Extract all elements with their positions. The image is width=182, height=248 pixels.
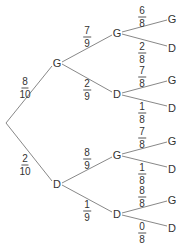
- numerator: 2: [21, 154, 29, 166]
- numerator: 1: [83, 200, 91, 212]
- numerator: 8: [83, 148, 91, 160]
- numerator: 1: [138, 102, 146, 114]
- numerator: 8: [138, 186, 146, 198]
- tree-node-d: D: [168, 103, 176, 114]
- denominator: 8: [139, 114, 145, 125]
- tree-branches: [0, 0, 182, 248]
- denominator: 9: [84, 38, 90, 49]
- branch-probability: 88: [138, 186, 146, 209]
- numerator: 0: [138, 222, 146, 234]
- numerator: 7: [138, 127, 146, 139]
- denominator: 10: [19, 89, 30, 100]
- denominator: 8: [139, 54, 145, 65]
- branch-probability: 29: [83, 79, 91, 102]
- numerator: 6: [138, 6, 146, 18]
- numerator: 8: [21, 77, 29, 89]
- branch-probability: 78: [138, 127, 146, 150]
- tree-node-d: D: [53, 179, 61, 190]
- denominator: 8: [139, 18, 145, 29]
- numerator: 7: [83, 26, 91, 38]
- tree-node-d: D: [113, 209, 121, 220]
- branch-probability: 19: [83, 200, 91, 223]
- tree-node-d: D: [113, 89, 121, 100]
- denominator: 10: [19, 166, 30, 177]
- branch-probability: 79: [83, 26, 91, 49]
- branch-probability: 68: [138, 6, 146, 29]
- branch-probability: 18: [138, 102, 146, 125]
- denominator: 8: [139, 234, 145, 245]
- tree-node-g: G: [113, 28, 122, 39]
- tree-node-g: G: [113, 150, 122, 161]
- numerator: 2: [83, 79, 91, 91]
- tree-node-g: G: [168, 136, 177, 147]
- branch-probability: 78: [138, 66, 146, 89]
- numerator: 1: [138, 163, 146, 175]
- branch-probability: 810: [19, 77, 30, 100]
- tree-node-d: D: [168, 223, 176, 234]
- denominator: 8: [139, 78, 145, 89]
- branch-probability: 08: [138, 222, 146, 245]
- branch-probability: 210: [19, 154, 30, 177]
- denominator: 9: [84, 160, 90, 171]
- branch-probability: 89: [83, 148, 91, 171]
- tree-node-g: G: [168, 75, 177, 86]
- tree-node-d: D: [168, 43, 176, 54]
- tree-node-g: G: [53, 58, 62, 69]
- denominator: 8: [139, 139, 145, 150]
- denominator: 9: [84, 212, 90, 223]
- denominator: 9: [84, 91, 90, 102]
- branch-probability: 28: [138, 42, 146, 65]
- numerator: 7: [138, 66, 146, 78]
- numerator: 2: [138, 42, 146, 54]
- branch-probability: 18: [138, 163, 146, 186]
- tree-node-g: G: [168, 14, 177, 25]
- tree-node-d: D: [168, 164, 176, 175]
- tree-node-g: G: [168, 195, 177, 206]
- denominator: 8: [139, 198, 145, 209]
